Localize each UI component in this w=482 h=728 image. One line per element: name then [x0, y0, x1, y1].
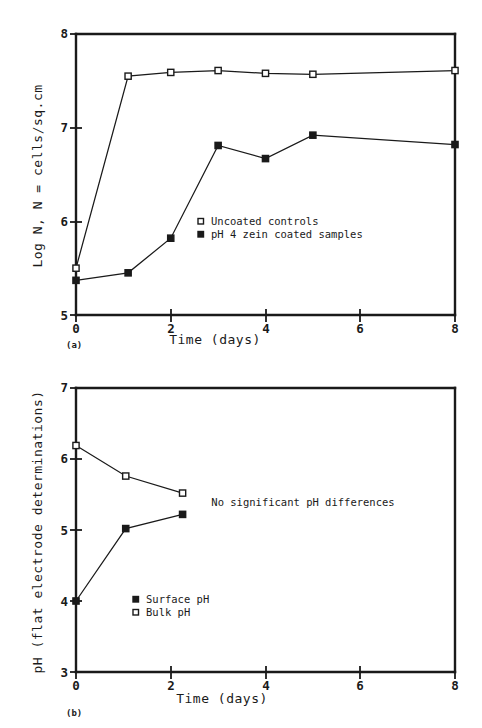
x-tick-label: 8: [451, 678, 459, 693]
x-tick-labels-a: 0 2 4 6 8: [72, 321, 459, 336]
data-point-marker: [179, 511, 185, 517]
x-tick-label: 2: [167, 678, 175, 693]
y-tick-label: 4: [60, 594, 68, 609]
data-point-marker: [125, 73, 131, 79]
y-tick-label: 7: [60, 120, 68, 135]
y-tick-label: 6: [60, 214, 68, 229]
series-line: [76, 446, 183, 494]
legend-a: Uncoated controls pH 4 zein coated sampl…: [198, 215, 363, 240]
x-tick-label: 0: [72, 678, 80, 693]
legend-marker-filled-square: [133, 597, 139, 603]
x-tick-label: 6: [356, 321, 364, 336]
legend-label: pH 4 zein coated samples: [211, 228, 363, 240]
y-axis-title-a: Log N, N = cells/sq.cm: [30, 84, 45, 267]
y-tick-label: 5: [60, 523, 68, 538]
x-tick-label: 6: [356, 678, 364, 693]
data-point-marker: [262, 70, 268, 76]
y-axis-title-b: pH (flat electrode determinations): [30, 390, 45, 673]
plot-b-svg: pH (flat electrode determinations) 7 6 5…: [0, 364, 482, 728]
plot-a-svg: Log N, N = cells/sq.cm 8 7 6 5: [0, 0, 482, 364]
data-point-marker: [215, 142, 221, 148]
figure-container: Log N, N = cells/sq.cm 8 7 6 5: [0, 0, 482, 728]
data-point-marker: [310, 132, 316, 138]
data-point-marker: [73, 265, 79, 271]
x-tick-label: 0: [72, 321, 80, 336]
data-point-marker: [179, 490, 185, 496]
chart-panel-b: pH (flat electrode determinations) 7 6 5…: [0, 364, 482, 728]
data-point-marker: [73, 598, 79, 604]
plot-frame-b: [76, 388, 455, 672]
data-point-marker: [123, 473, 129, 479]
x-axis-title-b: Time (days): [176, 691, 268, 706]
data-point-marker: [123, 525, 129, 531]
y-tick-label: 7: [60, 380, 68, 395]
legend-marker-open-square: [133, 610, 139, 616]
data-series-group-b: [73, 442, 186, 604]
x-tick-label: 8: [451, 321, 459, 336]
x-axis-title-a: Time (days): [169, 332, 261, 347]
data-point-marker: [452, 141, 458, 147]
panel-label-a: (a): [66, 340, 82, 350]
legend-label: Surface pH: [146, 593, 209, 605]
data-point-marker: [452, 67, 458, 73]
data-point-marker: [125, 270, 131, 276]
data-point-marker: [215, 67, 221, 73]
data-point-marker: [310, 71, 316, 77]
chart-panel-a: Log N, N = cells/sq.cm 8 7 6 5: [0, 0, 482, 364]
data-point-marker: [73, 442, 79, 448]
y-tick-label: 6: [60, 451, 68, 466]
panel-label-b: (b): [66, 708, 82, 718]
data-point-marker: [262, 155, 268, 161]
legend-label: Bulk pH: [146, 606, 190, 618]
y-tick-label: 8: [60, 26, 68, 41]
y-tick-label: 5: [60, 308, 68, 323]
annotation-no-significant-ph-differences: No significant pH differences: [211, 496, 394, 508]
legend-marker-filled-square: [198, 232, 204, 238]
x-tick-label: 4: [262, 321, 270, 336]
data-point-marker: [168, 235, 174, 241]
data-point-marker: [168, 69, 174, 75]
legend-b: Surface pH Bulk pH: [133, 593, 209, 618]
data-point-marker: [73, 277, 79, 283]
y-tick-label: 3: [60, 665, 68, 680]
data-series-group-a: [73, 67, 458, 283]
legend-marker-open-square: [198, 219, 204, 225]
y-tick-labels-b: 7 6 5 4 3: [60, 380, 68, 680]
y-tick-labels-a: 8 7 6 5: [60, 26, 68, 323]
legend-label: Uncoated controls: [211, 215, 318, 227]
